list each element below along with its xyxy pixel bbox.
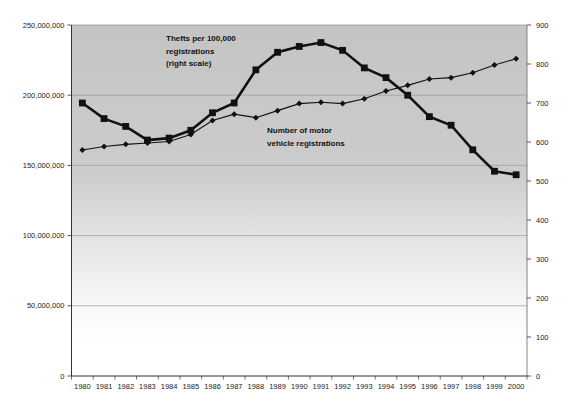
thefts-marker: [252, 66, 259, 73]
x-axis-label: 2000: [508, 382, 525, 391]
x-axis-label: 1981: [96, 382, 113, 391]
right-axis-label: 100: [536, 333, 549, 342]
annotation-thefts-label: Thefts per 100,000 registrations (right …: [166, 33, 236, 71]
plot-area: [72, 25, 528, 376]
left-axis-label: 100,000,000: [23, 231, 65, 240]
left-axis-label: 50,000,000: [27, 301, 65, 310]
x-axis-label: 1996: [421, 382, 438, 391]
thefts-marker: [426, 113, 433, 120]
x-axis-label: 1998: [464, 382, 481, 391]
thefts-marker: [231, 100, 238, 107]
thefts-marker: [187, 127, 194, 134]
thefts-marker: [209, 109, 216, 116]
annotation-line: Number of motor: [267, 125, 345, 138]
x-axis-label: 1985: [182, 382, 199, 391]
motor-vehicle-theft-chart: 250,000,000200,000,000150,000,000100,000…: [0, 0, 569, 412]
x-axis-label: 1989: [269, 382, 286, 391]
thefts-marker: [166, 135, 173, 142]
x-axis-label: 1994: [378, 382, 395, 391]
chart-page: 250,000,000200,000,000150,000,000100,000…: [0, 0, 569, 412]
annotation-line: vehicle registrations: [267, 138, 345, 151]
x-axis-label: 1991: [313, 382, 330, 391]
thefts-marker: [101, 115, 108, 122]
left-axis-label: 200,000,000: [23, 91, 65, 100]
thefts-marker: [144, 137, 151, 144]
x-axis-label: 1988: [248, 382, 265, 391]
thefts-marker: [491, 168, 498, 175]
thefts-marker: [318, 39, 325, 46]
thefts-marker: [448, 122, 455, 129]
x-axis-label: 1980: [74, 382, 91, 391]
thefts-marker: [361, 65, 368, 72]
right-axis-label: 900: [536, 21, 549, 30]
right-axis-label: 500: [536, 177, 549, 186]
annotation-line: registrations: [166, 46, 236, 59]
annotation-line: (right scale): [166, 58, 236, 71]
left-axis-label: 0: [60, 372, 64, 381]
annotation-registrations-label: Number of motor vehicle registrations: [267, 125, 345, 150]
thefts-marker: [79, 100, 86, 107]
thefts-marker: [296, 43, 303, 50]
x-axis-label: 1993: [356, 382, 373, 391]
thefts-marker: [274, 49, 281, 56]
right-axis-label: 800: [536, 60, 549, 69]
x-axis-label: 1990: [291, 382, 308, 391]
thefts-marker: [339, 47, 346, 54]
x-axis-label: 1984: [161, 382, 178, 391]
right-axis-label: 200: [536, 294, 549, 303]
right-axis-label: 400: [536, 216, 549, 225]
x-axis-label: 1999: [486, 382, 503, 391]
x-axis-label: 1983: [139, 382, 156, 391]
thefts-marker: [404, 92, 411, 99]
x-axis-label: 1987: [226, 382, 243, 391]
right-axis-label: 700: [536, 99, 549, 108]
x-axis-label: 1997: [443, 382, 460, 391]
left-axis-label: 150,000,000: [23, 161, 65, 170]
x-axis-label: 1982: [117, 382, 134, 391]
x-axis-label: 1986: [204, 382, 221, 391]
thefts-marker: [513, 171, 520, 178]
x-axis-label: 1995: [399, 382, 416, 391]
right-axis-label: 300: [536, 255, 549, 264]
left-axis-label: 250,000,000: [23, 21, 65, 30]
thefts-marker: [383, 74, 390, 81]
annotation-line: Thefts per 100,000: [166, 33, 236, 46]
x-axis-label: 1992: [334, 382, 351, 391]
right-axis-label: 0: [536, 372, 540, 381]
thefts-marker: [122, 123, 129, 130]
right-axis-label: 600: [536, 138, 549, 147]
thefts-marker: [469, 146, 476, 153]
